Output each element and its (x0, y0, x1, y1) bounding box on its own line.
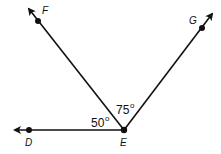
diagram-svg: D F G E 50 o 75 o (0, 0, 221, 154)
label-f: F (42, 5, 49, 16)
point-e (121, 127, 127, 133)
ray-ef (29, 9, 124, 130)
angle-def-degree: o (105, 114, 110, 123)
angle-diagram: D F G E 50 o 75 o (0, 0, 221, 154)
ray-eg (124, 14, 212, 130)
angle-feg-value: 75 (116, 103, 130, 117)
angle-feg-degree: o (130, 101, 135, 110)
angle-def-value: 50 (91, 116, 105, 130)
point-d (26, 127, 32, 133)
label-e: E (120, 137, 127, 148)
label-d: D (25, 137, 32, 148)
point-f (35, 18, 41, 24)
point-g (199, 25, 205, 31)
label-g: G (189, 15, 197, 26)
